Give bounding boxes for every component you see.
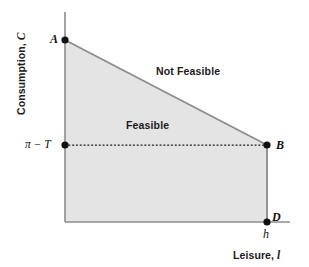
x-axis-title-text: Leisure, <box>233 249 277 261</box>
point-marker-d <box>263 218 270 225</box>
y-axis-title: Consumption, C <box>16 14 28 134</box>
consumption-leisure-budget-constraint-figure: Consumption, C Leisure, l Not Feasible F… <box>0 0 309 267</box>
feasible-region-label: Feasible <box>126 120 169 131</box>
not-feasible-region-label: Not Feasible <box>156 66 220 77</box>
y-axis-title-text: Consumption, <box>15 40 27 115</box>
x-axis-title-variable: l <box>277 249 280 261</box>
point-marker-b <box>263 141 270 148</box>
point-marker-a <box>61 36 68 43</box>
point-marker-pi-minus-t <box>61 141 68 148</box>
point-label-d: D <box>272 211 281 223</box>
y-axis-title-variable: C <box>15 32 27 40</box>
point-label-b: B <box>276 139 284 151</box>
x-tick-label-h: h <box>263 228 269 240</box>
x-axis-title: Leisure, l <box>233 250 280 262</box>
y-tick-label-pi-minus-t: π − T <box>25 139 51 151</box>
point-label-a: A <box>50 33 58 45</box>
